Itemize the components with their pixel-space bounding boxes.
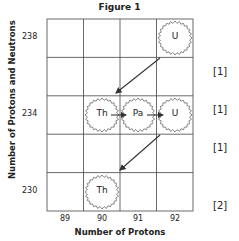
label-th-234: Th: [92, 108, 112, 118]
label-u-234: U: [165, 108, 185, 118]
label-pa-234: Pa: [128, 108, 148, 118]
label-u-238: U: [165, 31, 185, 41]
decay-chart: [0, 0, 239, 241]
label-th-230: Th: [92, 185, 112, 195]
